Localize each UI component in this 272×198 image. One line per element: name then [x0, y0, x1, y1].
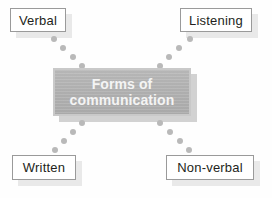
node-listening[interactable]: Listening: [180, 8, 252, 32]
connector-dot-verbal-1: [51, 36, 57, 42]
connector-dot-nonverbal-2: [167, 129, 173, 135]
hub-label-line-1: Forms of: [92, 76, 153, 92]
connector-dot-nonverbal-4: [186, 147, 192, 153]
connector-dot-written-4: [52, 147, 58, 153]
connector-dot-listening-2: [176, 45, 182, 51]
connector-dot-listening-3: [166, 54, 172, 60]
connector-dot-written-2: [70, 129, 76, 135]
node-written[interactable]: Written: [12, 155, 76, 180]
node-nonverbal[interactable]: Non-verbal: [166, 155, 254, 180]
connector-dot-verbal-2: [60, 45, 66, 51]
connector-dot-nonverbal-1: [157, 120, 163, 126]
node-hub-forms-of-communication[interactable]: Forms of communication: [53, 68, 191, 116]
connector-dot-verbal-3: [70, 54, 76, 60]
node-verbal-label: Verbal: [19, 14, 57, 27]
node-listening-label: Listening: [189, 14, 243, 27]
connector-dot-listening-1: [187, 36, 193, 42]
connector-dot-written-1: [79, 120, 85, 126]
connector-dot-nonverbal-3: [177, 138, 183, 144]
hub-label-line-2: communication: [70, 92, 175, 108]
connector-dot-written-3: [61, 138, 67, 144]
diagram-canvas: Verbal Listening Written Non-verbal Form…: [0, 0, 272, 198]
node-written-label: Written: [23, 161, 65, 174]
node-nonverbal-label: Non-verbal: [177, 161, 243, 174]
node-verbal[interactable]: Verbal: [10, 8, 66, 32]
